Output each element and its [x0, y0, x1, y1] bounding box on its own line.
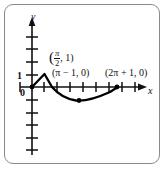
annotation-left-zero: (π − 1, 0) [52, 68, 89, 78]
x-axis-label: x [148, 86, 152, 96]
annotation-peak-point: (π2, 1) [49, 49, 74, 68]
point-dot-right-zero [115, 85, 120, 90]
point-dot-minimum [77, 98, 82, 103]
y-tick-label-1: 1 [17, 71, 22, 81]
coordinate-plane [0, 0, 166, 171]
annotation-peak-fraction: π2 [54, 49, 60, 68]
point-dot-origin [30, 85, 35, 90]
y-axis-label: y [31, 12, 35, 22]
math-figure: y x 1 0 (π2, 1) (π − 1, 0) (2π + 1, 0) [0, 0, 166, 171]
annotation-right-zero: (2π + 1, 0) [105, 68, 147, 78]
origin-label: 0 [20, 88, 25, 98]
annotation-peak-rest: , 1) [60, 52, 73, 63]
annotation-peak-numerator: π [54, 49, 60, 58]
